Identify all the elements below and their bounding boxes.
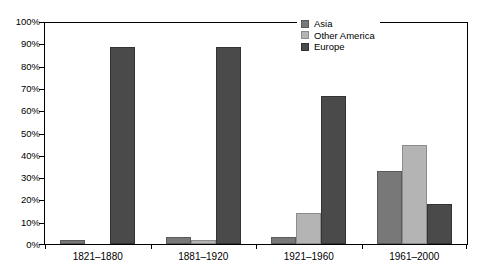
x-tick-mark [466,245,467,249]
bar-asia [166,237,191,244]
x-tick-mark [362,245,363,249]
y-axis-labels: 100% 90% 80% 70% 60% 50% 40% 30% 20% 10%… [0,22,40,245]
y-tick-label: 100% [0,17,40,27]
bar-group-1821-1880 [45,23,151,244]
y-tick-label: 30% [0,173,40,183]
legend-label: Asia [314,19,332,29]
y-tick-label: 50% [0,129,40,139]
bar-asia [377,171,402,244]
legend-swatch-icon [301,43,309,51]
plot-area [45,23,467,244]
bar-other-america [191,240,216,244]
bar-europe [321,96,346,244]
y-tick-label: 60% [0,106,40,116]
y-tick-label: 40% [0,151,40,161]
legend-label: Europe [314,42,345,52]
x-tick-mark [45,245,46,249]
x-tick-label: 1821–1880 [45,251,151,262]
bar-asia [271,237,296,244]
x-tick-label: 1881–1920 [151,251,257,262]
legend-item-other-america: Other America [301,31,375,41]
legend-item-europe: Europe [301,42,375,52]
bar-europe [216,47,241,244]
x-tick-mark [256,245,257,249]
legend-swatch-icon [301,31,309,39]
bar-europe [427,204,452,244]
x-tick-label: 1921–1960 [256,251,362,262]
chart-legend: Asia Other America Europe [297,16,380,56]
y-tick-label: 10% [0,218,40,228]
y-tick-label: 20% [0,196,40,206]
x-tick-mark [151,245,152,249]
y-tick-label: 0% [0,240,40,250]
x-axis-tick-marks [45,245,467,250]
bar-chart: 100% 90% 80% 70% 60% 50% 40% 30% 20% 10%… [0,0,482,276]
legend-swatch-icon [301,20,309,28]
legend-label: Other America [314,31,375,41]
legend-item-asia: Asia [301,19,375,29]
bar-group-1921-1960 [256,23,362,244]
bar-group-1961-2000 [362,23,468,244]
bars-layer [45,23,467,244]
bar-asia [60,240,85,244]
bar-other-america [296,213,321,244]
y-tick-label: 70% [0,84,40,94]
bar-europe [110,47,135,244]
y-tick-label: 80% [0,62,40,72]
x-tick-label: 1961–2000 [362,251,468,262]
bar-other-america [402,145,427,244]
bar-group-1881-1920 [151,23,257,244]
x-axis-labels: 1821–1880 1881–1920 1921–1960 1961–2000 [45,251,467,262]
y-tick-label: 90% [0,40,40,50]
